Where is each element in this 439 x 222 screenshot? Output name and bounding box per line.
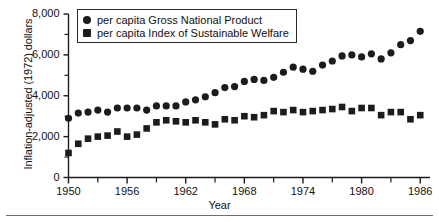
data-point — [143, 106, 150, 113]
data-point — [192, 96, 199, 103]
data-point — [104, 132, 111, 139]
data-point — [251, 114, 258, 121]
data-point — [221, 84, 228, 91]
data-point — [280, 109, 287, 116]
data-point — [85, 135, 92, 142]
data-point — [153, 102, 160, 109]
data-point — [290, 64, 297, 71]
data-point — [212, 121, 219, 128]
data-point — [241, 78, 248, 85]
data-point — [94, 106, 101, 113]
x-tick-label: 1950 — [43, 185, 95, 197]
data-point — [280, 69, 287, 76]
data-point — [358, 53, 365, 60]
data-point — [339, 104, 346, 111]
x-tick-label: 1962 — [160, 185, 212, 197]
data-point — [133, 104, 140, 111]
data-point — [75, 140, 82, 147]
data-point — [378, 55, 385, 62]
data-point — [241, 113, 248, 120]
data-point — [222, 116, 229, 123]
data-point — [261, 112, 268, 119]
y-tick-label: 2,000 — [0, 130, 60, 142]
data-point — [143, 125, 150, 132]
data-point — [172, 102, 179, 109]
data-point — [309, 68, 316, 75]
bottom-divider — [6, 215, 433, 216]
data-point — [270, 108, 277, 115]
data-point — [319, 61, 326, 68]
x-axis-label: Year — [0, 199, 439, 211]
data-point — [163, 117, 170, 124]
data-point — [349, 108, 356, 115]
data-point — [202, 93, 209, 100]
data-point — [124, 104, 131, 111]
x-axis-ticks — [69, 178, 421, 184]
chart-legend: per capita Gross National Product per ca… — [77, 9, 297, 43]
data-point — [104, 109, 111, 116]
legend-label-gnp: per capita Gross National Product — [97, 14, 262, 26]
y-tick-label: 8,000 — [0, 7, 60, 19]
data-point — [407, 116, 414, 123]
data-point — [75, 110, 82, 117]
data-point — [231, 83, 238, 90]
x-tick-label: 1956 — [101, 185, 153, 197]
data-point — [299, 66, 306, 73]
data-point — [309, 108, 316, 115]
data-point — [202, 119, 209, 126]
data-point — [114, 128, 121, 135]
data-point — [290, 107, 297, 114]
data-point — [251, 76, 258, 83]
data-point — [319, 107, 326, 114]
data-point — [134, 131, 141, 138]
data-point — [358, 105, 365, 112]
series-index-sustainable-welfare — [65, 104, 423, 157]
circle-marker-icon — [83, 16, 91, 24]
x-tick-label: 1980 — [336, 185, 388, 197]
data-point — [124, 133, 131, 140]
chart-figure: Inflation-adjusted (1972) dollars 02,000… — [0, 0, 439, 222]
data-point — [388, 109, 395, 116]
data-point — [348, 51, 355, 58]
data-point — [192, 117, 199, 124]
data-point — [182, 119, 189, 126]
square-marker-icon — [83, 29, 91, 37]
data-point — [387, 49, 394, 56]
y-tick-label: 0 — [0, 171, 60, 183]
data-point — [163, 102, 170, 109]
data-point — [417, 28, 424, 35]
data-point — [378, 112, 385, 119]
data-point — [397, 109, 404, 116]
data-point — [300, 109, 307, 116]
data-point — [95, 133, 102, 140]
data-point — [65, 150, 72, 157]
x-tick-label: 1974 — [277, 185, 329, 197]
data-point — [114, 104, 121, 111]
y-tick-label: 6,000 — [0, 48, 60, 60]
x-tick-label: 1968 — [218, 185, 270, 197]
data-point — [397, 41, 404, 48]
data-point — [231, 117, 238, 124]
data-point — [260, 77, 267, 84]
data-point — [173, 118, 180, 125]
data-point — [329, 106, 336, 113]
data-point — [84, 109, 91, 116]
legend-item-gnp: per capita Gross National Product — [83, 13, 289, 26]
legend-label-isw: per capita Index of Sustainable Welfare — [97, 27, 289, 39]
data-point — [338, 52, 345, 59]
data-point — [270, 74, 277, 81]
y-tick-label: 4,000 — [0, 89, 60, 101]
data-point — [65, 115, 72, 122]
data-point — [329, 57, 336, 64]
x-tick-label: 1986 — [394, 185, 439, 197]
data-point — [368, 105, 375, 112]
data-point — [407, 37, 414, 44]
data-point — [368, 50, 375, 57]
data-point — [211, 89, 218, 96]
data-point — [417, 112, 424, 119]
data-point — [182, 98, 189, 105]
data-point — [153, 119, 160, 126]
legend-item-isw: per capita Index of Sustainable Welfare — [83, 26, 289, 39]
